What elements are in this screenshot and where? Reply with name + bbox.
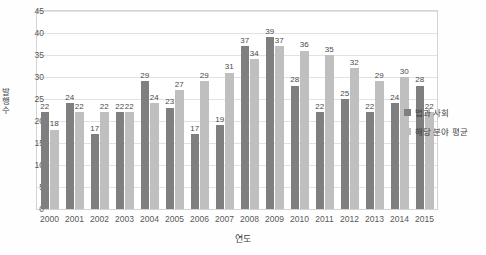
bar-value-label: 31 bbox=[220, 63, 238, 71]
bars-layer: 2218242217222222292423271729193137343937… bbox=[37, 11, 437, 209]
bar-value-label: 22 bbox=[70, 103, 88, 111]
bar-value-label: 18 bbox=[45, 120, 63, 128]
bar-series2-2002[interactable] bbox=[100, 112, 109, 209]
bar-group: 2235 bbox=[312, 11, 337, 209]
bar-value-label: 22 bbox=[36, 103, 54, 111]
bar-series1-2005[interactable] bbox=[166, 108, 175, 209]
bar-group: 1729 bbox=[187, 11, 212, 209]
bar-value-label: 28 bbox=[411, 76, 429, 84]
bar-series2-2013[interactable] bbox=[375, 81, 384, 209]
bar-value-label: 37 bbox=[236, 37, 254, 45]
bar-series1-2006[interactable] bbox=[191, 134, 200, 209]
bar-series1-2010[interactable] bbox=[291, 86, 300, 209]
bar-group: 2229 bbox=[362, 11, 387, 209]
bar-value-label: 24 bbox=[61, 94, 79, 102]
bar-value-label: 29 bbox=[370, 72, 388, 80]
x-tick-label: 2008 bbox=[240, 214, 259, 224]
bar-series2-2007[interactable] bbox=[225, 73, 234, 209]
bar-series1-2013[interactable] bbox=[366, 112, 375, 209]
bar-value-label: 35 bbox=[320, 46, 338, 54]
bar-series1-2002[interactable] bbox=[91, 134, 100, 209]
bar-series2-2000[interactable] bbox=[50, 130, 59, 209]
bar-value-label: 29 bbox=[136, 72, 154, 80]
bar-series1-2011[interactable] bbox=[316, 112, 325, 209]
bar-chart: 발행수 051015202530354045 22182422172222222… bbox=[0, 0, 486, 255]
bar-value-label: 39 bbox=[261, 28, 279, 36]
legend: 법과 사회해당 분야 평균 bbox=[404, 106, 468, 144]
x-tick-label: 2013 bbox=[365, 214, 384, 224]
x-tick-label: 2002 bbox=[90, 214, 109, 224]
bar-group: 2218 bbox=[37, 11, 62, 209]
bar-series1-2014[interactable] bbox=[391, 103, 400, 209]
bar-series2-2004[interactable] bbox=[150, 103, 159, 209]
bar-series2-2003[interactable] bbox=[125, 112, 134, 209]
bar-series1-2003[interactable] bbox=[116, 112, 125, 209]
legend-label: 해당 분야 평균 bbox=[415, 125, 468, 137]
legend-swatch-icon bbox=[404, 109, 411, 116]
y-axis-title-char: 수 bbox=[0, 106, 14, 115]
bar-value-label: 36 bbox=[295, 41, 313, 49]
x-tick-label: 2011 bbox=[315, 214, 333, 224]
bar-group: 1722 bbox=[87, 11, 112, 209]
x-tick-label: 2014 bbox=[390, 214, 409, 224]
bar-group: 3937 bbox=[262, 11, 287, 209]
bar-series1-2009[interactable] bbox=[266, 37, 275, 209]
bar-series2-2010[interactable] bbox=[300, 51, 309, 209]
bar-value-label: 29 bbox=[195, 72, 213, 80]
bar-series2-2009[interactable] bbox=[275, 46, 284, 209]
bar-value-label: 37 bbox=[270, 37, 288, 45]
bar-series2-2008[interactable] bbox=[250, 59, 259, 209]
bar-group: 2532 bbox=[337, 11, 362, 209]
bar-series2-2012[interactable] bbox=[350, 68, 359, 209]
bar-group: 2222 bbox=[112, 11, 137, 209]
x-tick-label: 2003 bbox=[115, 214, 134, 224]
bar-series2-2011[interactable] bbox=[325, 55, 334, 209]
legend-item-1[interactable]: 법과 사회 bbox=[404, 106, 468, 118]
bar-value-label: 30 bbox=[395, 68, 413, 76]
bar-group: 2422 bbox=[62, 11, 87, 209]
x-tick-label: 2009 bbox=[265, 214, 284, 224]
bar-value-label: 27 bbox=[170, 81, 188, 89]
bar-value-label: 22 bbox=[120, 103, 138, 111]
x-tick-label: 2010 bbox=[290, 214, 309, 224]
bar-series2-2005[interactable] bbox=[175, 90, 184, 209]
bar-series1-2001[interactable] bbox=[66, 103, 75, 209]
bar-group: 2327 bbox=[162, 11, 187, 209]
x-tick-label: 2005 bbox=[165, 214, 184, 224]
legend-label: 법과 사회 bbox=[415, 106, 449, 118]
x-tick-label: 2006 bbox=[190, 214, 209, 224]
bar-series2-2001[interactable] bbox=[75, 112, 84, 209]
bar-series1-2007[interactable] bbox=[216, 125, 225, 209]
x-tick-label: 2000 bbox=[40, 214, 59, 224]
x-tick-label: 2007 bbox=[215, 214, 234, 224]
bar-series1-2012[interactable] bbox=[341, 99, 350, 209]
x-tick-label: 2004 bbox=[140, 214, 159, 224]
bar-value-label: 34 bbox=[245, 50, 263, 58]
legend-item-2[interactable]: 해당 분야 평균 bbox=[404, 125, 468, 137]
bar-series2-2006[interactable] bbox=[200, 81, 209, 209]
bar-group: 2924 bbox=[137, 11, 162, 209]
bar-series1-2008[interactable] bbox=[241, 46, 250, 209]
bar-group: 2836 bbox=[287, 11, 312, 209]
bar-value-label: 32 bbox=[345, 59, 363, 67]
legend-swatch-icon bbox=[404, 128, 411, 135]
x-tick-label: 2012 bbox=[340, 214, 359, 224]
bar-group: 1931 bbox=[212, 11, 237, 209]
y-axis-title: 발행수 bbox=[0, 88, 14, 115]
bar-group: 3734 bbox=[237, 11, 262, 209]
x-tick-label: 2015 bbox=[415, 214, 434, 224]
x-tick-label: 2001 bbox=[65, 214, 84, 224]
x-axis-title: 연도 bbox=[0, 232, 486, 245]
